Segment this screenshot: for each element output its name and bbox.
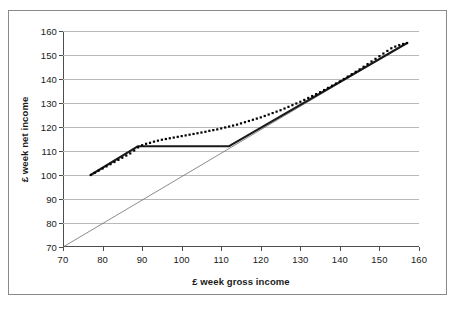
data-point-marker xyxy=(260,116,262,118)
data-point-marker xyxy=(101,167,103,169)
x-tick-label-90: 90 xyxy=(137,254,148,265)
data-point-marker xyxy=(141,144,143,146)
data-point-marker xyxy=(145,143,147,145)
y-axis-title-label: £ week net income xyxy=(20,96,31,182)
data-point-marker xyxy=(113,161,115,163)
y-tick-label-70: 70 xyxy=(46,242,57,253)
data-point-marker xyxy=(181,135,183,137)
data-point-marker xyxy=(212,129,214,131)
series-path xyxy=(91,43,407,175)
data-point-marker xyxy=(185,134,187,136)
x-tick-label-150: 150 xyxy=(371,254,387,265)
data-point-marker xyxy=(291,104,293,106)
data-point-marker xyxy=(327,87,329,89)
data-point-marker xyxy=(157,140,159,142)
data-point-marker xyxy=(307,97,309,99)
data-point-marker xyxy=(398,44,400,46)
data-point-marker xyxy=(319,91,321,93)
data-point-marker xyxy=(299,101,301,103)
data-point-marker xyxy=(323,89,325,91)
data-point-marker xyxy=(200,131,202,133)
data-point-marker xyxy=(133,149,135,151)
x-tick-label-130: 130 xyxy=(292,254,308,265)
chart-figure: £ week net income 7080901001101201301401… xyxy=(0,0,455,312)
data-point-marker xyxy=(149,142,151,144)
data-point-marker xyxy=(355,71,357,73)
x-tick-mark-130 xyxy=(300,247,301,251)
data-point-marker xyxy=(374,58,376,60)
y-tick-label-150: 150 xyxy=(41,50,57,61)
data-point-marker xyxy=(347,76,349,78)
data-point-marker xyxy=(188,134,190,136)
x-tick-mark-100 xyxy=(182,247,183,251)
y-tick-label-160: 160 xyxy=(41,26,57,37)
data-point-marker xyxy=(244,121,246,123)
y-tick-label-110: 110 xyxy=(42,146,57,157)
data-point-marker xyxy=(264,115,266,117)
series-solid-net-income xyxy=(91,43,407,175)
data-point-marker xyxy=(220,127,222,129)
data-point-marker xyxy=(105,165,107,167)
data-point-marker xyxy=(287,106,289,108)
y-tick-label-140: 140 xyxy=(41,74,57,85)
x-tick-mark-80 xyxy=(103,247,104,251)
data-point-marker xyxy=(196,132,198,134)
data-point-marker xyxy=(268,113,270,115)
x-tick-mark-140 xyxy=(340,247,341,251)
data-point-marker xyxy=(359,68,361,70)
data-point-marker xyxy=(370,60,372,62)
data-point-marker xyxy=(272,112,274,114)
x-tick-mark-150 xyxy=(379,247,380,251)
plot-area: 708090100110120130140150160 708090100110… xyxy=(63,31,419,247)
data-point-marker xyxy=(378,55,380,57)
data-point-marker xyxy=(161,139,163,141)
data-point-marker xyxy=(129,152,131,154)
series-layer xyxy=(63,31,419,247)
data-point-marker xyxy=(204,131,206,133)
data-point-marker xyxy=(137,146,139,148)
data-point-marker xyxy=(390,47,392,49)
data-point-marker xyxy=(335,82,337,84)
data-point-marker xyxy=(208,130,210,132)
data-point-marker xyxy=(339,80,341,82)
data-point-marker xyxy=(125,154,127,156)
data-point-marker xyxy=(351,73,353,75)
x-axis-title: £ week gross income xyxy=(63,276,419,287)
data-point-marker xyxy=(386,50,388,52)
x-tick-mark-120 xyxy=(261,247,262,251)
data-point-marker xyxy=(279,109,281,111)
data-point-marker xyxy=(382,52,384,54)
data-point-marker xyxy=(240,122,242,124)
data-point-marker xyxy=(236,124,238,126)
x-tick-mark-90 xyxy=(142,247,143,251)
data-point-marker xyxy=(216,128,218,130)
data-point-marker xyxy=(248,120,250,122)
x-tick-label-110: 110 xyxy=(213,254,228,265)
data-point-marker xyxy=(366,63,368,65)
x-tick-mark-160 xyxy=(419,247,420,251)
data-point-marker xyxy=(276,111,278,113)
data-point-marker xyxy=(343,78,345,80)
data-point-marker xyxy=(283,107,285,109)
data-point-marker xyxy=(177,136,179,138)
data-point-marker xyxy=(363,66,365,68)
data-point-marker xyxy=(153,141,155,143)
y-tick-label-90: 90 xyxy=(46,194,57,205)
x-tick-label-100: 100 xyxy=(174,254,190,265)
data-point-marker xyxy=(121,157,123,159)
y-tick-label-100: 100 xyxy=(41,170,57,181)
data-point-marker xyxy=(402,43,404,45)
data-point-marker xyxy=(117,159,119,161)
data-point-marker xyxy=(90,174,92,176)
x-tick-label-120: 120 xyxy=(253,254,269,265)
data-point-marker xyxy=(295,102,297,104)
y-tick-label-80: 80 xyxy=(46,218,57,229)
y-axis-title: £ week net income xyxy=(18,31,32,247)
data-point-marker xyxy=(256,118,258,120)
x-tick-mark-70 xyxy=(63,247,64,251)
data-point-marker xyxy=(406,42,408,44)
data-point-marker xyxy=(94,172,96,174)
data-point-marker xyxy=(224,126,226,128)
y-tick-label-130: 130 xyxy=(41,98,57,109)
data-point-marker xyxy=(192,133,194,135)
